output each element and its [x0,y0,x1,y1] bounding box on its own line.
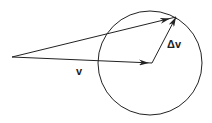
vector-diagram: v Δv [0,0,212,123]
vector-v [12,57,152,63]
vector-v-plus-delta-v [12,17,176,57]
diagram-svg: v Δv [0,0,212,123]
label-v: v [76,65,83,77]
label-delta-v: Δv [167,38,182,50]
